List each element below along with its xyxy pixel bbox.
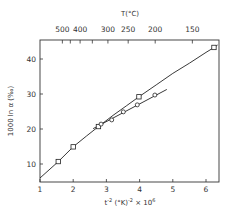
circle-marker [99, 122, 103, 126]
y-tick-label: 40 [26, 55, 36, 64]
square-marker [137, 95, 141, 99]
circle-marker [110, 118, 114, 122]
circle-marker [153, 93, 157, 97]
x-tick-label: 3 [104, 185, 109, 194]
top-tick-label: 250 [121, 25, 136, 34]
x-axis-title: t-2 (°K)-2 × 106 [105, 197, 156, 207]
square-marker [56, 159, 60, 163]
x-tick-label: 4 [137, 185, 142, 194]
curve-squares-series [40, 45, 218, 178]
circle-marker [121, 110, 125, 114]
y-axis-title: 1000 ln α (‰) [7, 86, 15, 137]
y-tick-label: 10 [26, 160, 36, 169]
top-tick-label: 300 [101, 25, 116, 34]
top-tick-label: 150 [185, 25, 200, 34]
y-tick-label: 20 [26, 125, 36, 134]
y-tick-label: 30 [26, 90, 36, 99]
circle-marker [135, 103, 139, 107]
x-tick-label: 1 [38, 185, 43, 194]
x-tick-label: 2 [71, 185, 76, 194]
top-axis-title: T(°C) [120, 10, 139, 18]
plot-curves [40, 45, 218, 178]
top-tick-label: 500 [55, 25, 70, 34]
square-marker [71, 145, 75, 149]
top-tick-label: 200 [148, 25, 163, 34]
x-tick-label: 6 [204, 185, 209, 194]
square-marker [212, 45, 216, 49]
top-tick-label: 400 [73, 25, 88, 34]
isotope-fractionation-chart: 12345610203040500400300250200150 T(°C) t… [0, 0, 234, 218]
plot-axes: 12345610203040500400300250200150 [26, 25, 219, 194]
plot-markers [56, 45, 216, 164]
x-tick-label: 5 [170, 185, 175, 194]
